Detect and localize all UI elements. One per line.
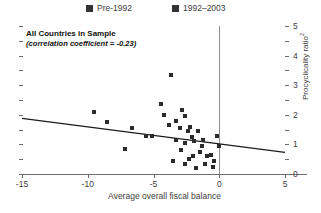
y-tick-right <box>285 100 289 101</box>
y-tick-label: 0 <box>293 169 298 179</box>
scatter-point <box>174 138 178 142</box>
y-tick-label: 3 <box>293 80 298 90</box>
y-tick-left <box>19 130 23 131</box>
x-tick-label: -15 <box>16 179 28 189</box>
y-tick-label: 5 <box>293 21 298 31</box>
y-axis-title-text: Procyclicality ratio <box>301 36 310 100</box>
x-tick-label: -5 <box>150 179 158 189</box>
scatter-point <box>167 123 171 127</box>
y-tick-right <box>285 115 289 116</box>
scatter-point <box>187 157 191 161</box>
scatter-point <box>192 139 196 143</box>
chart-legend: Pre-1992 1992–2003 <box>0 0 321 18</box>
plot-area <box>22 26 285 174</box>
y-tick-left <box>19 144 23 145</box>
scatter-point <box>196 129 200 133</box>
scatter-point <box>159 102 163 106</box>
legend-swatch-icon <box>172 5 179 12</box>
legend-item-pre-1992: Pre-1992 <box>86 3 132 13</box>
y-tick-left <box>19 159 23 160</box>
y-tick-left <box>19 56 23 57</box>
y-tick-right <box>285 85 289 86</box>
scatter-point <box>190 135 194 139</box>
y-tick-right <box>285 144 289 145</box>
y-tick-right <box>285 41 289 42</box>
scatter-point <box>201 138 205 142</box>
scatter-point <box>194 166 198 170</box>
scatter-point <box>171 159 175 163</box>
y-tick-left <box>19 100 23 101</box>
scatter-point <box>178 126 182 130</box>
y-tick-right <box>285 130 289 131</box>
x-tick-label: 0 <box>217 179 222 189</box>
x-axis-title-text: Average overall fiscal balance <box>100 191 221 201</box>
x-tick <box>88 174 89 178</box>
scatter-point <box>174 119 178 123</box>
y-tick-right <box>285 70 289 71</box>
scatter-point <box>209 153 213 157</box>
legend-item-1992-2003: 1992–2003 <box>172 3 226 13</box>
scatter-point <box>169 73 173 77</box>
scatter-point <box>179 148 183 152</box>
x-tick-label: -10 <box>82 179 94 189</box>
scatter-point <box>183 162 187 166</box>
scatter-point <box>183 141 187 145</box>
scatter-point <box>212 159 216 163</box>
y-tick-right <box>285 174 289 175</box>
scatter-point <box>92 110 96 114</box>
scatter-point <box>188 125 192 129</box>
scatter-point <box>105 120 109 124</box>
y-tick-left <box>19 85 23 86</box>
scatter-point <box>144 134 148 138</box>
chart-figure: Pre-1992 1992–2003 All Countries in Samp… <box>0 0 321 213</box>
scatter-point <box>203 162 207 166</box>
y-axis-title-superscript: 2 <box>299 33 305 36</box>
x-tick <box>154 174 155 178</box>
y-tick-left <box>19 41 23 42</box>
y-tick-left <box>19 115 23 116</box>
scatter-point <box>123 147 127 151</box>
y-tick-right <box>285 56 289 57</box>
legend-swatch-icon <box>86 5 93 12</box>
scatter-point <box>211 165 215 169</box>
scatter-point <box>215 134 219 138</box>
y-tick-left <box>19 174 23 175</box>
legend-label: Pre-1992 <box>97 3 132 13</box>
scatter-point <box>198 150 202 154</box>
x-axis-title: Average overall fiscal balance <box>0 191 321 201</box>
y-axis-title: Procyclicality ratio2 <box>299 33 310 100</box>
scatter-point <box>180 108 184 112</box>
y-tick-label: 1 <box>293 139 298 149</box>
legend-label: 1992–2003 <box>183 3 226 13</box>
scatter-point <box>183 114 187 118</box>
y-tick-label: 2 <box>293 110 298 120</box>
scatter-point <box>130 126 134 130</box>
y-tick-label: 4 <box>293 51 298 61</box>
scatter-point <box>186 129 190 133</box>
scatter-point <box>200 144 204 148</box>
scatter-point <box>162 113 166 117</box>
x-tick <box>219 174 220 178</box>
scatter-point <box>150 134 154 138</box>
y-tick-right <box>285 26 289 27</box>
scatter-point <box>191 154 195 158</box>
y-tick-right <box>285 159 289 160</box>
y-tick-left <box>19 26 23 27</box>
trend-line <box>22 26 285 174</box>
y-tick-left <box>19 70 23 71</box>
scatter-point <box>217 144 221 148</box>
x-tick-label: 5 <box>283 179 288 189</box>
x-axis-line <box>22 174 307 175</box>
